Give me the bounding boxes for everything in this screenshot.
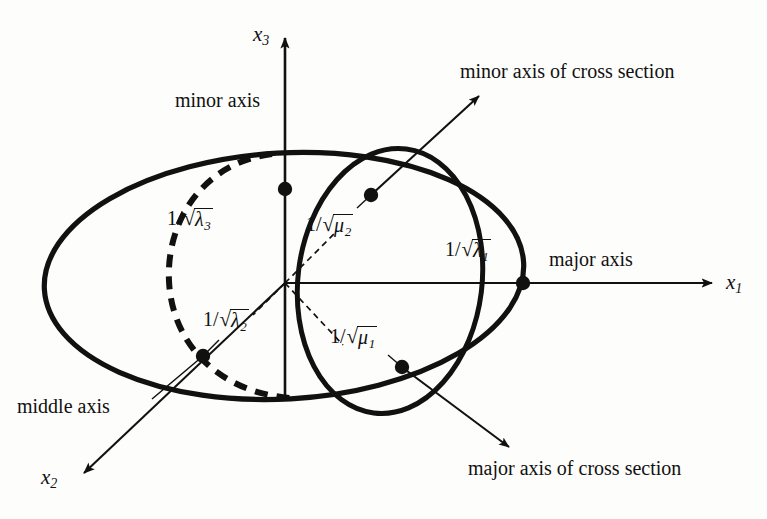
point-mu1	[395, 360, 409, 374]
principal-section-x2x3	[169, 154, 291, 398]
annotation-major-axis-cross-section: major axis of cross section	[468, 458, 681, 478]
annotation-minor-axis: minor axis	[175, 90, 260, 110]
annotation-middle-axis: middle axis	[17, 396, 110, 416]
measure-label-lambda1: 1/√λ1	[445, 238, 491, 262]
measure-label-mu2: 1/√μ2	[306, 213, 353, 237]
fraction-one-over: 1/	[445, 238, 461, 260]
annotation-minor-axis-cross-section: minor axis of cross section	[460, 61, 674, 81]
lambda-symbol: λ	[473, 239, 482, 261]
major-axis-cross-section-arrow	[403, 368, 509, 447]
axis-x2-subscript: 2	[50, 476, 57, 491]
minor-axis-cross-section-arrow	[371, 96, 479, 195]
axis-x3-letter: x	[253, 22, 262, 46]
measure-label-lambda3: 1/√λ3	[167, 207, 213, 231]
radical-mu2: √μ2	[322, 213, 354, 237]
radical-lambda2: √λ2	[219, 308, 249, 332]
mu2-subscript: 2	[344, 224, 351, 239]
mu1-subscript: 1	[368, 336, 375, 351]
point-lambda2	[196, 349, 210, 363]
radical-lambda3: √λ3	[183, 207, 213, 231]
point-lambda1	[516, 276, 530, 290]
lambda-symbol: λ	[195, 208, 204, 230]
lambda1-subscript: 1	[482, 249, 489, 264]
axis-x3-subscript: 3	[262, 33, 269, 48]
axis-x1-subscript: 1	[735, 281, 742, 296]
annotation-major-axis: major axis	[549, 249, 633, 269]
fraction-one-over: 1/	[330, 325, 346, 347]
mu-symbol: μ	[334, 214, 344, 236]
fraction-one-over: 1/	[306, 213, 322, 235]
ellipsoid-cross-section-figure: x3 x1 x2 minor axis major axis middle ax…	[0, 0, 767, 519]
lambda3-subscript: 3	[204, 218, 211, 233]
axis-x1-letter: x	[726, 270, 735, 294]
point-mu2	[364, 188, 378, 202]
lambda2-subscript: 2	[240, 319, 247, 334]
axis-label-x2: x2	[41, 467, 57, 491]
axis-label-x1: x1	[726, 272, 742, 296]
radical-lambda1: √λ1	[461, 238, 491, 262]
axis-x2-letter: x	[41, 465, 50, 489]
measure-label-lambda2: 1/√λ2	[203, 308, 249, 332]
point-lambda3	[278, 182, 292, 196]
axis-label-x3: x3	[253, 24, 269, 48]
radical-mu1: √μ1	[346, 325, 378, 349]
fraction-one-over: 1/	[167, 207, 183, 229]
fraction-one-over: 1/	[203, 308, 219, 330]
axis-x2	[84, 283, 285, 473]
measure-label-mu1: 1/√μ1	[330, 325, 377, 349]
mu-symbol: μ	[358, 326, 368, 348]
lambda-symbol: λ	[231, 309, 240, 331]
